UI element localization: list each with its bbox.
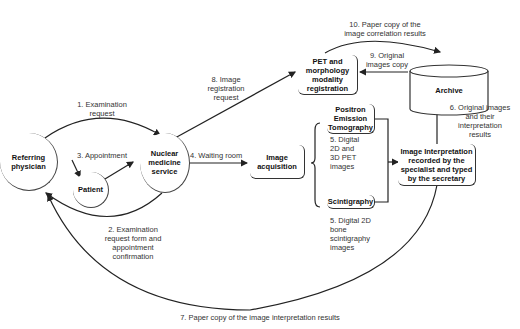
node-image-acquisition: Image acquisition: [250, 145, 305, 179]
label-e7: 7. Paper copy of the image interpretatio…: [140, 313, 380, 322]
node-pet: Positron Emission Tomography: [327, 104, 375, 134]
node-interpretation: Image Interpretation recorded by the spe…: [398, 144, 476, 186]
label-e10: 10. Paper copy of the image correlation …: [335, 20, 435, 38]
node-nuclear-medicine: Nuclear medicine service: [140, 133, 190, 193]
node-pet-registration: PET and morphology modality registration: [298, 55, 358, 95]
label-e5a: 5. Digital 2D and 3D PET images: [330, 135, 370, 171]
label-e1: 1. Examination request: [62, 100, 142, 118]
node-referring-physician: Referring physician: [0, 133, 58, 191]
node-scintigraphy: Scintigraphy: [327, 195, 375, 209]
edge-appointment-to-patient: [72, 160, 80, 177]
brace: [311, 123, 320, 207]
edge-examination-request: [45, 118, 160, 138]
label-e9: 9. Original images copy: [357, 51, 417, 69]
node-patient: Patient: [73, 172, 109, 208]
label-e4: 4. Waiting room: [190, 151, 250, 160]
label-e8: 8. Image registration request: [196, 75, 256, 102]
label-e6: 6. Original images and their interpretat…: [440, 103, 520, 139]
label-e3: 3. Appointment: [77, 151, 147, 160]
edge-pet-connector: [375, 119, 388, 202]
label-e2: 2. Examination request form and appointm…: [98, 225, 168, 261]
label-e5b: 5. Digital 2D bone scintigraphy images: [330, 216, 380, 252]
